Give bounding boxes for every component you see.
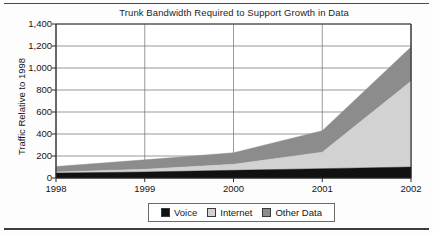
- x-axis-tick-2000: 2000: [209, 183, 259, 194]
- y-axis-tick-1000: 1,000: [6, 62, 52, 73]
- chart-legend: VoiceInternetOther Data: [148, 203, 335, 222]
- y-axis-tick-200: 200: [6, 150, 52, 161]
- chart-svg: [0, 0, 433, 236]
- figure-container: Trunk Bandwidth Required to Support Grow…: [0, 0, 433, 236]
- y-axis-tick-1200: 1,200: [6, 40, 52, 51]
- y-axis-tick-800: 800: [6, 84, 52, 95]
- legend-swatch-icon: [262, 208, 271, 217]
- plot-area: [0, 0, 433, 236]
- y-axis-tick-1400: 1,400: [6, 18, 52, 29]
- legend-swatch-icon: [161, 208, 170, 217]
- legend-label: Voice: [174, 207, 197, 218]
- legend-item-internet: Internet: [207, 207, 252, 218]
- x-axis-tick-2001: 2001: [297, 183, 347, 194]
- x-axis-tick-1999: 1999: [120, 183, 170, 194]
- y-axis-tick-600: 600: [6, 106, 52, 117]
- x-axis-tick-1998: 1998: [31, 183, 81, 194]
- legend-item-other-data: Other Data: [262, 207, 321, 218]
- y-axis-tick-0: 0: [6, 172, 52, 183]
- legend-label: Internet: [220, 207, 252, 218]
- legend-swatch-icon: [207, 208, 216, 217]
- legend-label: Other Data: [275, 207, 321, 218]
- x-axis-tick-2002: 2002: [386, 183, 433, 194]
- legend-item-voice: Voice: [161, 207, 197, 218]
- y-axis-tick-400: 400: [6, 128, 52, 139]
